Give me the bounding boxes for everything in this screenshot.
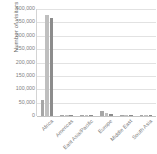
bar-group [136,9,156,116]
bars-layer [37,9,156,116]
bar-chart: Number of visitors 050,000100,000150,000… [0,0,157,154]
bar [41,100,45,116]
y-axis-tick-label: 0 [8,113,35,118]
bar-group [97,9,117,116]
y-axis-tick-label: 350,000 [8,20,35,25]
y-axis-tick-label: 400,000 [8,6,35,11]
y-axis-tick-label: 300,000 [8,33,35,38]
y-axis-tick-labels: 050,000100,000150,000200,000250,000300,0… [8,0,35,154]
y-axis-tick-label: 50,000 [8,100,35,105]
y-axis-tick-label: 150,000 [8,73,35,78]
x-axis-tick-label: Africa [40,118,54,132]
bar [45,15,49,116]
plot-area [36,9,156,116]
bar-group [116,9,136,116]
y-axis-tick-label: 200,000 [8,60,35,65]
bar-group [77,9,97,116]
bar [50,18,54,116]
x-axis-tick-labels: AfricaAmericasEast Asia/PacificEuropeMid… [36,116,155,154]
y-axis-tick-label: 100,000 [8,87,35,92]
bar-group [37,9,57,116]
x-axis-tick-label: South Asia [131,118,153,140]
bar-group [57,9,77,116]
x-axis-tick-label: Europe [97,118,114,135]
y-axis-tick-label: 250,000 [8,46,35,51]
